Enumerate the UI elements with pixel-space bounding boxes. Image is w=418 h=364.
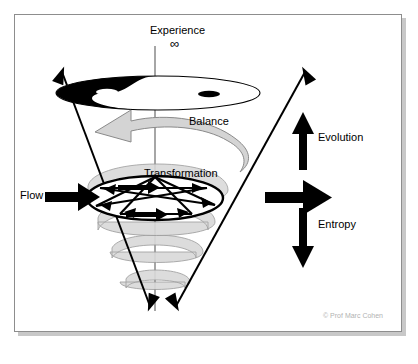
label-experience: Experience — [150, 24, 205, 36]
label-evolution: Evolution — [318, 131, 363, 143]
pentagram-icon — [87, 176, 223, 221]
right-arrow-icon — [265, 180, 332, 215]
down-arrow-icon — [292, 208, 314, 268]
up-arrow-icon — [292, 112, 314, 170]
diagram-artwork — [0, 0, 418, 364]
label-entropy: Entropy — [318, 218, 356, 230]
label-balance: Balance — [189, 115, 229, 127]
infinity-icon: ∞ — [170, 38, 179, 50]
yin-yang-icon — [56, 76, 260, 110]
label-transformation: Transformation — [144, 167, 218, 179]
diagram-canvas: Experience ∞ Balance Transformation Evol… — [0, 0, 418, 364]
label-flow: Flow — [20, 189, 43, 201]
credit-text: © Prof Marc Cohen — [323, 312, 383, 320]
